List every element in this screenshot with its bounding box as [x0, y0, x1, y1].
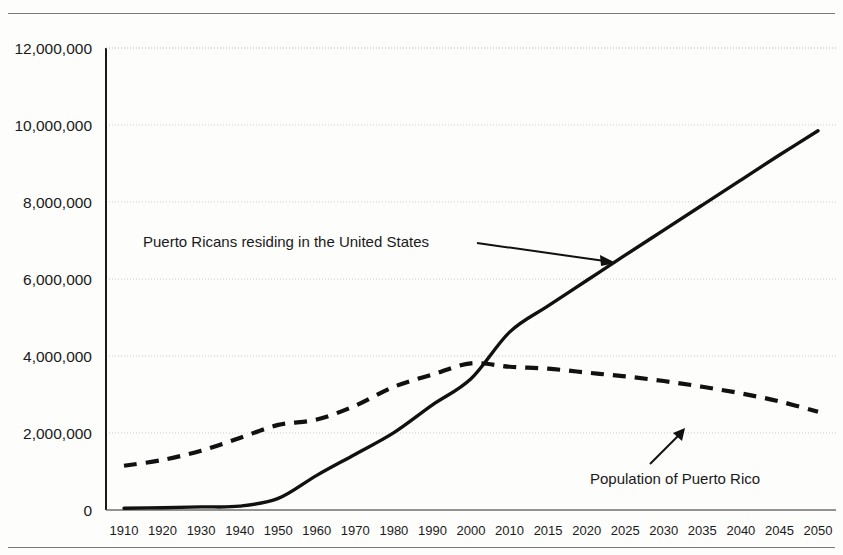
annotation-label-puerto-ricans-in-us: Puerto Ricans residing in the United Sta…: [143, 233, 429, 250]
annotation-arrow-line-pr: [650, 432, 682, 464]
x-axis-tick-label: 1910: [110, 523, 139, 538]
y-axis-tick-label: 10,000,000: [14, 117, 92, 134]
annotation-label-population-of-puerto-rico: Population of Puerto Rico: [590, 470, 760, 487]
y-axis-tick-labels: 02,000,0004,000,0006,000,0008,000,00010,…: [14, 40, 92, 519]
x-axis-tick-label: 2010: [495, 523, 524, 538]
y-axis-tick-label: 8,000,000: [23, 194, 92, 211]
x-axis-tick-label: 1950: [264, 523, 293, 538]
x-axis-tick-label: 1970: [341, 523, 370, 538]
y-axis-tick-label: 6,000,000: [23, 271, 92, 288]
x-axis-tick-label: 1940: [225, 523, 254, 538]
annotation-arrow-line-us: [477, 243, 612, 262]
x-axis-tick-label: 1920: [148, 523, 177, 538]
y-axis-tick-label: 12,000,000: [14, 40, 92, 57]
annotation-puerto-ricans-in-us: Puerto Ricans residing in the United Sta…: [143, 233, 616, 266]
x-axis-tick-label: 1990: [418, 523, 447, 538]
x-axis-tick-label: 2020: [572, 523, 601, 538]
y-axis-tick-label: 4,000,000: [23, 348, 92, 365]
x-axis-tick-label: 2030: [649, 523, 678, 538]
x-axis-tick-labels: 1910192019301940195019601970198019902000…: [110, 523, 833, 538]
x-axis-tick-label: 1980: [379, 523, 408, 538]
x-axis-tick-label: 2040: [726, 523, 755, 538]
x-axis-tick-label: 2000: [457, 523, 486, 538]
x-axis-tick-label: 1960: [302, 523, 331, 538]
chart-canvas: 02,000,0004,000,0006,000,0008,000,00010,…: [0, 0, 843, 555]
x-axis-tick-label: 2025: [611, 523, 640, 538]
x-axis-tick-label: 2015: [534, 523, 563, 538]
y-axis-tick-label: 0: [83, 502, 92, 519]
x-axis-tick-label: 2045: [765, 523, 794, 538]
x-axis-tick-label: 2035: [688, 523, 717, 538]
series-line-puerto-ricans-in-us: [124, 131, 818, 508]
x-axis-tick-label: 2050: [804, 523, 833, 538]
y-axis-tick-label: 2,000,000: [23, 425, 92, 442]
annotation-population-of-puerto-rico: Population of Puerto Rico: [590, 428, 760, 487]
x-axis-tick-label: 1930: [187, 523, 216, 538]
line-chart-figure: 02,000,0004,000,0006,000,0008,000,00010,…: [0, 0, 843, 555]
chart-page: 02,000,0004,000,0006,000,0008,000,00010,…: [0, 0, 843, 555]
